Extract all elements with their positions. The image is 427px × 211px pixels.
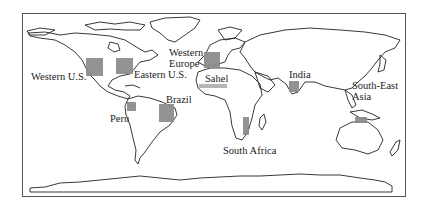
label-western-europe-line2: Europe (169, 58, 203, 69)
label-eastern-us: Eastern U.S. (134, 69, 187, 80)
label-western-europe-line1: Western (169, 47, 203, 58)
label-india: India (289, 69, 311, 80)
label-western-us: Western U.S. (31, 71, 86, 82)
label-south-africa: South Africa (223, 145, 276, 156)
region-south-east-asia (355, 117, 367, 123)
label-south-east-asia-line1: South-East (352, 80, 398, 91)
label-western-europe: Western Europe (169, 47, 203, 69)
region-brazil (159, 104, 174, 122)
region-india (289, 81, 299, 92)
region-western-us (86, 58, 103, 76)
label-south-east-asia-line2: Asia (352, 91, 398, 102)
region-south-africa (243, 117, 249, 135)
region-sahel (199, 84, 227, 88)
world-map-coastlines (0, 0, 427, 211)
region-western-europe (204, 52, 220, 68)
label-brazil: Brazil (166, 94, 192, 105)
region-eastern-us (116, 58, 133, 74)
region-peru (127, 102, 136, 111)
label-sahel: Sahel (205, 73, 228, 84)
label-south-east-asia: South-East Asia (352, 80, 398, 102)
label-peru: Peru (110, 113, 129, 124)
